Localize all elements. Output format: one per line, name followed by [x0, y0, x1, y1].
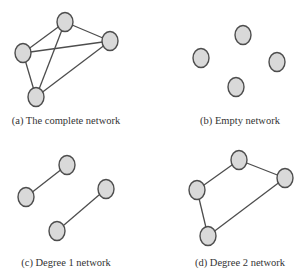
- node-right: [269, 53, 285, 72]
- panel-c-degree-1-network: [18, 156, 114, 241]
- node-right: [102, 32, 118, 51]
- panel-d-degree-2-network: [189, 151, 293, 246]
- node-top: [57, 13, 73, 32]
- node-bottom: [228, 78, 244, 97]
- node-right: [277, 169, 293, 188]
- node-top: [231, 151, 247, 170]
- edge-right-bottom: [208, 178, 285, 236]
- node-left: [193, 49, 209, 68]
- node-bottom: [28, 88, 44, 107]
- node-top: [59, 156, 75, 175]
- node-bottom: [49, 222, 65, 241]
- node-right: [98, 180, 114, 199]
- caption-degree-2-network: (d) Degree 2 network: [195, 257, 285, 268]
- caption-complete-network: (a) The complete network: [12, 115, 121, 126]
- node-left: [189, 181, 205, 200]
- node-left: [15, 44, 31, 63]
- edge-right-bottom: [57, 189, 106, 231]
- node-left: [18, 188, 34, 207]
- caption-degree-1-network: (c) Degree 1 network: [21, 257, 111, 268]
- caption-empty-network: (b) Empty network: [200, 115, 280, 126]
- panel-a-complete-network: [15, 13, 118, 107]
- node-bottom: [200, 227, 216, 246]
- network-figure: (a) The complete network (b) Empty netwo…: [0, 0, 305, 278]
- panel-b-empty-network: [193, 26, 285, 97]
- node-top: [235, 26, 251, 45]
- network-diagrams: [0, 0, 305, 278]
